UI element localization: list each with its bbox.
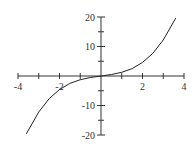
x-tick-label: 2	[140, 81, 145, 92]
y-tick-label: 20	[85, 12, 95, 23]
y-tick-label: -20	[82, 130, 95, 141]
y-tick-label: -10	[82, 100, 95, 111]
x-tick-label: -2	[55, 81, 63, 92]
x-tick-label: -4	[14, 81, 22, 92]
y-tick-label: 10	[85, 41, 95, 52]
function-plot: -4-2242010-10-20	[0, 0, 196, 151]
x-tick-label: 4	[182, 81, 187, 92]
